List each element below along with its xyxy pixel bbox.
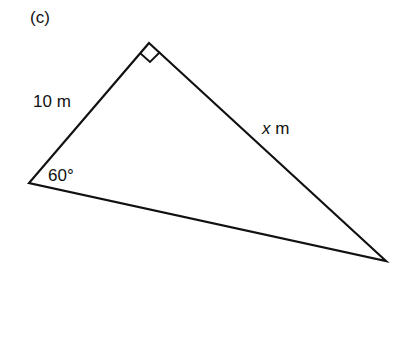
hypotenuse-label: x m bbox=[262, 119, 289, 139]
angle-label: 60° bbox=[48, 166, 74, 186]
hypotenuse-unit: m bbox=[271, 119, 290, 138]
part-label: (c) bbox=[30, 8, 50, 28]
right-angle-marker bbox=[140, 52, 160, 62]
triangle bbox=[29, 43, 386, 261]
hypotenuse-variable: x bbox=[262, 119, 271, 138]
side-length-label: 10 m bbox=[33, 92, 71, 112]
